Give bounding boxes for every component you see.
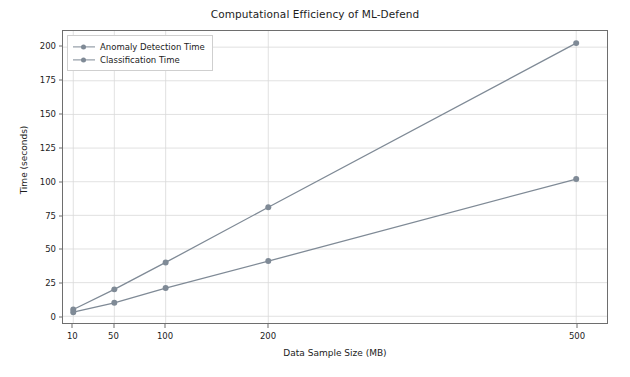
- data-point: [70, 309, 76, 315]
- plot-area: [62, 30, 608, 324]
- chart-legend: Anomaly Detection TimeClassification Tim…: [67, 35, 213, 71]
- y-axis-title: Time (seconds): [19, 60, 29, 260]
- data-point: [163, 285, 169, 291]
- x-axis-tick-marks: [62, 324, 608, 330]
- x-tick-label: 200: [260, 331, 276, 341]
- x-tick-mark: [72, 324, 73, 328]
- x-tick-mark: [113, 324, 114, 328]
- legend-marker-icon: [73, 42, 95, 52]
- data-point: [573, 176, 579, 182]
- chart-title: Computational Efficiency of ML-Defend: [0, 8, 630, 20]
- x-tick-mark: [165, 324, 166, 328]
- x-tick-label: 50: [108, 331, 119, 341]
- legend-item[interactable]: Classification Time: [73, 53, 205, 66]
- legend-marker-icon: [73, 55, 95, 65]
- data-point: [111, 300, 117, 306]
- x-tick-label: 500: [569, 331, 585, 341]
- chart-figure: Computational Efficiency of ML-Defend 02…: [0, 0, 630, 377]
- x-axis-title: Data Sample Size (MB): [62, 348, 608, 358]
- x-tick-mark: [268, 324, 269, 328]
- legend-label: Classification Time: [100, 55, 180, 65]
- data-point: [265, 204, 271, 210]
- data-point: [163, 259, 169, 265]
- x-tick-mark: [577, 324, 578, 328]
- data-point: [573, 40, 579, 46]
- legend-label: Anomaly Detection Time: [100, 42, 205, 52]
- series-line-1: [73, 179, 576, 312]
- legend-item[interactable]: Anomaly Detection Time: [73, 40, 205, 53]
- series-line-0: [73, 43, 576, 309]
- data-point: [265, 258, 271, 264]
- x-axis-tick-labels: 1050100200500: [62, 331, 608, 345]
- y-axis-tick-marks: [0, 30, 62, 324]
- data-point: [111, 286, 117, 292]
- x-tick-label: 100: [157, 331, 173, 341]
- x-tick-label: 10: [67, 331, 78, 341]
- data-series-layer: [63, 31, 607, 323]
